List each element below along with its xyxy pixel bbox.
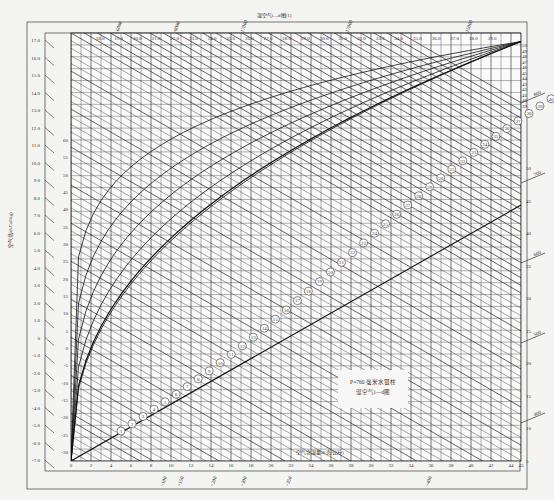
tick-label: 40 [549,97,554,102]
tick-label: 32 [460,159,466,164]
tick-label: 24.0 [208,36,217,41]
tick-label: 41 [522,93,528,98]
tick-label: 45 [526,199,532,204]
tick-label: 21 [339,260,345,265]
x-axis-title: 空气含湿量d(克/公斤) [296,449,344,456]
tick-label: 19.0 [114,36,123,41]
tick-label: 10 [63,311,69,316]
tick-label: 40 [526,231,532,236]
tick-label: 5 [526,459,529,464]
tick-label: 25 [63,259,69,264]
tick-label: 37 [515,119,521,124]
tick-label: 34 [482,142,488,147]
tick-label: 47 [522,60,528,65]
tick-label: ~400 [424,475,432,487]
tick-label: 20 [269,463,275,468]
tick-label: 34.0 [394,36,403,41]
tick-label: 27.0 [264,36,273,41]
tick-label: 16.0 [31,56,40,61]
tick-label: 15 [526,394,532,399]
tick-label: 11 [229,352,234,357]
tick-label: 30 [369,463,375,468]
tick-label: 4 [110,463,113,468]
tick-label: 1.0 [34,318,41,323]
tick-label: 6.0 [34,231,41,236]
tick-label: 12 [189,463,195,468]
tick-label: -7.0 [32,458,40,463]
tick-label: 18.0 [96,36,105,41]
tick-label: 2 [90,463,93,468]
psychrometric-chart: 湿空气i—d图(1) 02468101214161820222426283032… [0,0,554,500]
tick-label: 14 [209,463,215,468]
y-axis-title: 空气焓i(kCal/kg) [7,212,14,248]
tick-label: 14.0 [31,91,40,96]
tick-label: ~200 [209,475,217,487]
tick-label: 55 [63,155,69,160]
tick-label: 10 [526,426,532,431]
tick-label: 18 [306,289,312,294]
tick-label: 12 [240,344,246,349]
tick-label: 35 [493,134,499,139]
tick-label: 22 [289,463,295,468]
tick-label: -10 [61,381,68,386]
tick-label: 18 [249,463,255,468]
tick-label: 23 [361,241,367,246]
tick-label: 29.0 [301,36,310,41]
tick-label: ~350 [284,475,292,487]
tick-label: 26.0 [245,36,254,41]
tick-label: 31 [449,167,455,172]
tick-label: 12.0 [31,126,40,131]
tick-label: 20 [63,277,69,282]
tick-label: -15 [61,398,68,403]
tick-label: 45 [519,463,525,468]
tick-label: 45 [522,71,528,76]
tick-label: 0 [38,336,41,341]
tick-label: 25 [383,222,389,227]
tick-label: 32 [389,463,395,468]
tick-label: 39 [537,104,543,109]
tick-label: 16 [229,463,235,468]
tick-label: 48 [522,54,528,59]
tick-label: -20 [61,415,68,420]
tick-label: 33.0 [376,36,385,41]
tick-label: 28 [349,463,355,468]
tick-label: 0 [70,463,73,468]
tick-label: 36.0 [432,36,441,41]
tick-label: 50 [63,173,69,178]
tick-label: -5 [64,363,69,368]
tick-label: 22 [350,250,356,255]
tick-label: 3.0 [34,283,41,288]
tick-label: 5.0 [34,248,41,253]
tick-label: -5.0 [32,423,40,428]
tick-label: 36 [504,126,510,131]
tick-label: 34 [409,463,415,468]
tick-label: ~300 [239,475,247,487]
tick-label: -4.0 [32,406,40,411]
tick-label: 5 [66,329,69,334]
tick-label: -6.0 [32,441,40,446]
tick-label: 17 [295,298,301,303]
tick-label: 13 [251,335,257,340]
tick-label: 39 [522,104,528,109]
tick-label: 35.0 [413,36,422,41]
tick-label: 19 [317,279,323,284]
tick-label: 10.0 [31,161,40,166]
tick-label: 31.0 [338,36,347,41]
chart-title: 湿空气i—d图(1) [257,12,292,19]
tick-label: 49 [522,49,528,54]
tick-label: 6 [130,463,133,468]
tick-label: 25 [526,329,532,334]
tick-label: 35 [63,225,69,230]
tick-label: 60 [63,138,69,143]
tick-label: 17.0 [31,38,40,43]
legend-line-1: P=760 毫米水银柱 [350,378,396,386]
tick-label: 40 [63,207,69,212]
legend-line-2: 湿空气i—d图 [356,388,390,396]
tick-label: 38.0 [469,36,478,41]
tick-label: 39.0 [488,36,497,41]
tick-label: 11.0 [31,143,40,148]
tick-label: 0 [66,346,69,351]
tick-label: -30 [61,450,68,455]
tick-label: 37.0 [450,36,459,41]
tick-label: 30 [63,242,69,247]
